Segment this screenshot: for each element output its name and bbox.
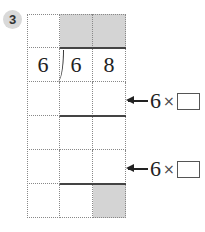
step-multiplier: 6 — [150, 88, 161, 114]
subtraction-line-1 — [60, 115, 126, 117]
work-cell[interactable] — [60, 116, 93, 150]
work-cell — [27, 116, 60, 150]
quotient-cell-blank — [27, 14, 60, 48]
arrow-left-icon — [128, 168, 148, 170]
quotient-cell-ones[interactable] — [93, 14, 126, 48]
work-cell[interactable] — [60, 184, 93, 218]
subtraction-line-2 — [60, 183, 126, 185]
work-cell — [27, 82, 60, 116]
dividend-digit-tens: 6 — [60, 48, 93, 82]
work-cell[interactable] — [93, 116, 126, 150]
step-hint-2: 6 × — [128, 156, 200, 182]
dividend-digit-ones: 8 — [93, 48, 126, 82]
work-cell — [27, 184, 60, 218]
work-cell[interactable] — [93, 82, 126, 116]
step-multiplier: 6 — [150, 156, 161, 182]
work-cell[interactable] — [60, 82, 93, 116]
times-icon: × — [163, 161, 175, 177]
step-hint-1: 6 × — [128, 88, 200, 114]
work-cell[interactable] — [93, 150, 126, 184]
problem-number-badge: 3 — [3, 10, 22, 29]
answer-box[interactable] — [177, 161, 200, 178]
arrow-left-icon — [128, 100, 148, 102]
times-icon: × — [163, 93, 175, 109]
division-bar — [60, 47, 126, 49]
remainder-cell[interactable] — [93, 184, 126, 218]
work-cell[interactable] — [60, 150, 93, 184]
quotient-cell-tens[interactable] — [60, 14, 93, 48]
work-cell — [27, 150, 60, 184]
answer-box[interactable] — [177, 93, 200, 110]
